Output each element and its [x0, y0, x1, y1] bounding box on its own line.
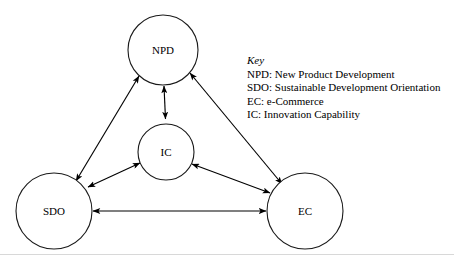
key-legend: Key NPD: New Product Development SDO: Su… — [247, 54, 452, 122]
key-entry-ec: EC: e-Commerce — [247, 95, 452, 109]
relationship-diagram: NPD IC SDO EC — [0, 0, 454, 263]
link-ic-ec — [192, 164, 270, 193]
key-entry-sdo: SDO: Sustainable Development Orientation — [247, 81, 452, 95]
node-label-ec: EC — [298, 205, 312, 217]
diagram-figure: NPD IC SDO EC Key NPD: New Product Devel… — [0, 0, 454, 263]
link-ic-sdo — [88, 163, 140, 187]
link-npd-sdo — [76, 76, 139, 181]
node-label-ic: IC — [161, 146, 172, 158]
key-title: Key — [247, 54, 452, 68]
node-label-sdo: SDO — [43, 205, 65, 217]
key-entry-npd: NPD: New Product Development — [247, 68, 452, 82]
key-entry-ic: IC: Innovation Capability — [247, 108, 452, 122]
link-npd-ic — [164, 86, 166, 119]
node-group: NPD IC SDO EC — [16, 15, 343, 249]
node-label-npd: NPD — [152, 44, 174, 56]
